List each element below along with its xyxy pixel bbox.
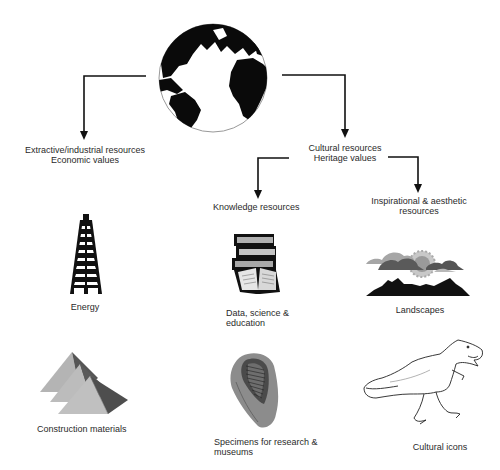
data-science-education-label: Data, science & education xyxy=(226,308,289,328)
specimens-label: Specimens for research & museums xyxy=(214,437,318,457)
landscape-icon xyxy=(364,244,472,300)
globe-icon xyxy=(157,20,269,136)
oil-derrick-icon xyxy=(68,214,104,298)
pyramids-icon xyxy=(36,350,132,416)
extractive-title: Extractive/industrial resources Economic… xyxy=(10,145,160,165)
construction-materials-label: Construction materials xyxy=(37,424,127,434)
books-icon xyxy=(230,232,286,298)
cultural-title: Cultural resources Heritage values xyxy=(285,143,405,163)
arrow-to-knowledge xyxy=(254,158,289,199)
energy-label: Energy xyxy=(50,302,120,312)
inspirational-title: Inspirational & aesthetic resources xyxy=(360,196,478,216)
trilobite-fossil-icon xyxy=(228,352,284,430)
dinosaur-icon xyxy=(360,338,488,428)
cultural-icons-label: Cultural icons xyxy=(400,442,480,452)
arrow-to-extractive xyxy=(80,76,146,140)
arrow-to-cultural xyxy=(282,75,349,138)
landscapes-label: Landscapes xyxy=(385,305,455,315)
knowledge-title: Knowledge resources xyxy=(213,202,300,212)
